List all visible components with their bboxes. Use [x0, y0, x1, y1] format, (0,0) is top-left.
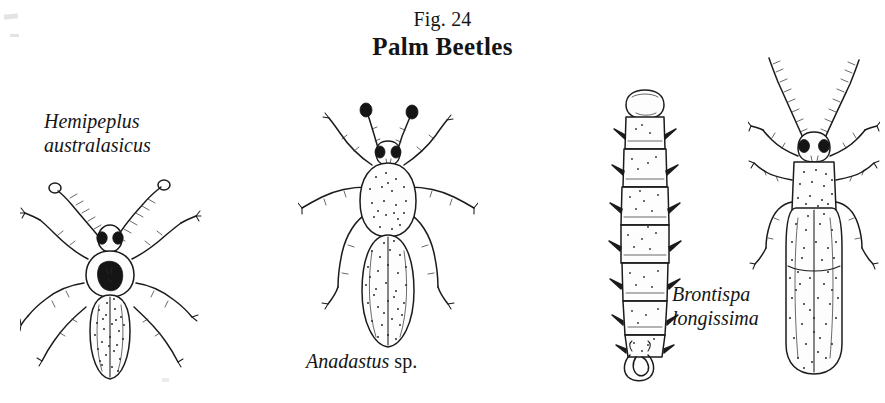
specimen-illustration-hemipeplus — [20, 175, 210, 385]
pronotum — [360, 163, 416, 237]
head — [375, 141, 401, 165]
species-label-line: Brontispa — [672, 283, 759, 307]
eye — [97, 232, 107, 244]
larva-segments — [609, 117, 681, 357]
brontispa-drawing — [748, 52, 880, 392]
larva-drawing — [592, 83, 698, 383]
specimen-illustration-brontispa-larva — [592, 83, 698, 383]
figure-number: Fig. 24 — [0, 8, 885, 31]
hemipeplus-drawing — [20, 175, 210, 385]
figure-container: Fig. 24 Palm Beetles — [0, 0, 885, 403]
eye — [113, 232, 123, 244]
species-label-anadastus: Anadastus sp. — [306, 350, 417, 374]
species-label-brontispa: Brontispa longissima — [672, 283, 759, 330]
pronotum — [792, 162, 836, 210]
eye — [819, 140, 830, 153]
specimen-illustration-anadastus — [298, 95, 478, 350]
species-label-line: longissima — [672, 307, 759, 331]
eye — [799, 140, 810, 153]
species-label-rank: sp. — [394, 350, 417, 372]
head — [798, 132, 830, 162]
species-label-genus: Anadastus — [306, 350, 389, 372]
head — [97, 225, 123, 252]
elytra — [786, 208, 842, 374]
elytra — [90, 295, 130, 379]
specimen-illustration-brontispa-adult — [748, 52, 880, 392]
species-label-line: australasicus — [44, 134, 151, 158]
larva-head — [626, 90, 664, 119]
species-label-line: Hemipeplus — [44, 110, 151, 134]
species-label-hemipeplus: Hemipeplus australasicus — [44, 110, 151, 157]
eye — [391, 146, 401, 158]
eye — [375, 146, 385, 158]
anadastus-drawing — [298, 95, 478, 350]
elytra — [362, 235, 414, 347]
antennae — [769, 58, 859, 140]
pronotum — [86, 251, 134, 297]
